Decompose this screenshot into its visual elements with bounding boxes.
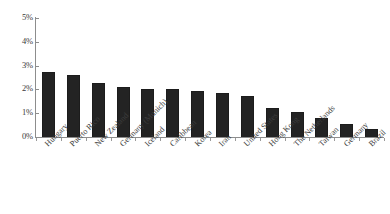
- x-axis-tick-mark: [210, 138, 211, 141]
- x-axis-tick-mark: [260, 138, 261, 141]
- bar-fill: [167, 90, 178, 137]
- bar-fill: [142, 90, 153, 137]
- y-axis-tick-label: 4%: [7, 37, 33, 46]
- bar-fill: [292, 113, 303, 137]
- y-axis-ticks: 0%1%2%3%4%5%: [0, 0, 33, 214]
- bar: [117, 87, 130, 137]
- bar: [191, 91, 204, 137]
- bar: [365, 129, 378, 137]
- bar-fill: [68, 76, 79, 137]
- y-axis-tick-label: 3%: [7, 61, 33, 70]
- y-axis-tick-label: 2%: [7, 84, 33, 93]
- bar-fill: [316, 119, 327, 137]
- x-axis-tick-mark: [235, 138, 236, 141]
- x-axis-tick-mark: [36, 138, 37, 141]
- x-axis-tick-mark: [384, 138, 385, 141]
- bar-chart: 0%1%2%3%4%5% HungaryPuerto RicoNew Zeala…: [0, 0, 390, 214]
- y-axis-tick-label: 5%: [7, 13, 33, 22]
- x-axis-tick-mark: [135, 138, 136, 141]
- bar: [166, 89, 179, 137]
- bar: [67, 75, 80, 137]
- x-axis-tick-mark: [285, 138, 286, 141]
- bar-fill: [43, 73, 54, 137]
- x-axis-tick-mark: [160, 138, 161, 141]
- bar-fill: [118, 88, 129, 137]
- bar: [315, 118, 328, 137]
- bar-fill: [93, 84, 104, 137]
- bar: [241, 96, 254, 137]
- bar-fill: [366, 130, 377, 137]
- x-axis-tick-mark: [309, 138, 310, 141]
- bar: [340, 124, 353, 137]
- x-axis-tick-mark: [86, 138, 87, 141]
- bar-fill: [217, 94, 228, 137]
- bar-fill: [192, 92, 203, 137]
- bar-fill: [341, 125, 352, 137]
- x-axis-tick-mark: [334, 138, 335, 141]
- bar-fill: [242, 97, 253, 137]
- x-axis-tick-mark: [185, 138, 186, 141]
- plot-area: [36, 18, 384, 137]
- bar: [291, 112, 304, 137]
- x-axis-tick-mark: [111, 138, 112, 141]
- y-axis-tick-label: 0%: [7, 132, 33, 141]
- x-axis-tick-mark: [359, 138, 360, 141]
- bar-fill: [267, 109, 278, 137]
- bar: [216, 93, 229, 137]
- bar: [266, 108, 279, 137]
- bar: [141, 89, 154, 137]
- bar: [92, 83, 105, 137]
- y-axis-tick-label: 1%: [7, 108, 33, 117]
- x-axis-tick-mark: [61, 138, 62, 141]
- bar: [42, 72, 55, 137]
